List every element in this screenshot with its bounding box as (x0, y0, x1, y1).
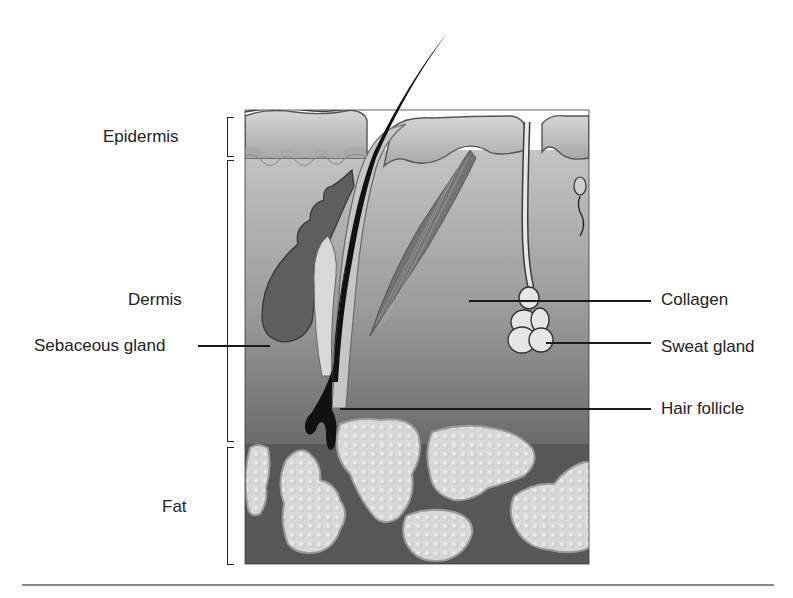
epidermis-bracket (227, 117, 234, 157)
label-epidermis: Epidermis (103, 127, 179, 147)
leader-sebaceous-gland (198, 345, 270, 347)
dermis-layer (245, 106, 594, 564)
nerve-ending (574, 177, 586, 195)
label-sweat-gland: Sweat gland (661, 337, 755, 357)
fat-bracket (227, 447, 234, 565)
leader-hair-follicle (340, 408, 651, 410)
label-sebaceous-gland: Sebaceous gland (34, 336, 165, 356)
leader-collagen (469, 300, 651, 302)
label-collagen: Collagen (661, 290, 728, 310)
leader-sweat-gland (546, 342, 651, 344)
dermis-bracket (227, 160, 234, 442)
label-fat: Fat (162, 497, 187, 517)
label-dermis: Dermis (128, 290, 182, 310)
bottom-divider (22, 584, 774, 586)
label-hair-follicle: Hair follicle (661, 399, 744, 419)
